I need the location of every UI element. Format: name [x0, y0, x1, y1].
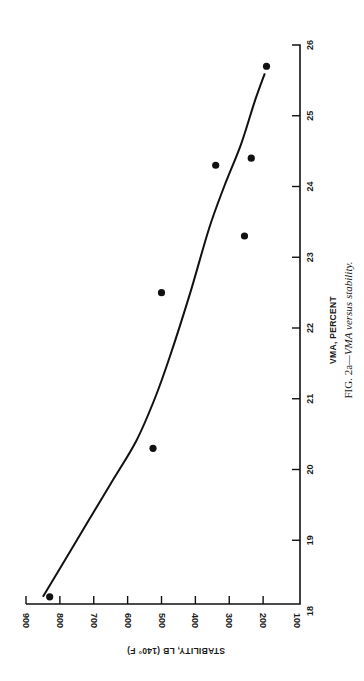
- vma-tick-label: 18: [305, 606, 315, 616]
- data-point: [248, 155, 255, 162]
- stability-tick-label: 200: [258, 613, 268, 628]
- data-point: [241, 232, 248, 239]
- chart-figure: 1002003004005006007008009001819202122232…: [0, 0, 364, 681]
- chart-tick-labels: 1002003004005006007008009001819202122232…: [21, 40, 315, 628]
- y-axis-title: STABILITY, LB (140° F): [127, 646, 225, 656]
- caption-label: FIG. 2a: [342, 365, 354, 399]
- stability-tick-label: 500: [157, 613, 167, 628]
- stability-tick-label: 100: [292, 613, 302, 628]
- vma-tick-label: 23: [305, 252, 315, 262]
- data-point: [149, 445, 156, 452]
- stability-tick-label: 600: [123, 613, 133, 628]
- data-point: [158, 289, 165, 296]
- figure-caption: FIG. 2a—VMA versus stability.: [342, 262, 354, 399]
- data-point: [212, 162, 219, 169]
- caption-text: —VMA versus stability.: [342, 262, 354, 366]
- vma-tick-label: 26: [305, 40, 315, 50]
- chart-ticks: [26, 116, 300, 604]
- vma-tick-label: 21: [305, 394, 315, 404]
- x-axis-title: VMA, PERCENT: [328, 296, 338, 364]
- stability-tick-label: 900: [21, 613, 31, 628]
- vma-tick-label: 24: [305, 181, 315, 191]
- vma-tick-label: 19: [305, 535, 315, 545]
- stability-tick-label: 400: [190, 613, 200, 628]
- data-point: [46, 593, 53, 600]
- vma-tick-label: 25: [305, 111, 315, 121]
- stability-tick-label: 300: [224, 613, 234, 628]
- axis-frame: [26, 45, 300, 604]
- data-points: [46, 63, 270, 601]
- stability-tick-label: 800: [55, 613, 65, 628]
- chart-axes: [26, 45, 300, 604]
- vma-tick-label: 20: [305, 464, 315, 474]
- data-point: [263, 63, 270, 70]
- fitted-curve: [43, 73, 265, 597]
- vma-tick-label: 22: [305, 323, 315, 333]
- stability-tick-label: 700: [89, 613, 99, 628]
